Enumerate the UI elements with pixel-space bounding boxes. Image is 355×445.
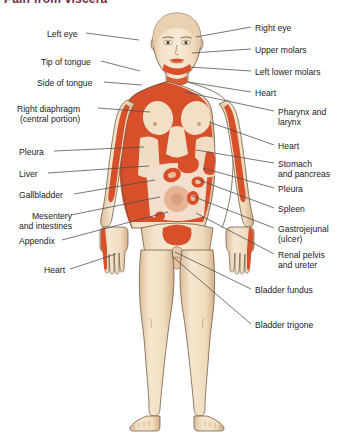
callout-label-line1: Stomach (278, 159, 312, 169)
callout-label-line1: Mesentery (32, 211, 72, 221)
callout-label-line1: Heart (278, 141, 299, 151)
callout-label-line1: Pharynx and (278, 107, 326, 117)
callout-label-line1: Liver (19, 169, 38, 179)
callout-label-appendix: Appendix (19, 236, 55, 246)
callout-label-line1: Right eye (255, 23, 291, 33)
callout-label-line1: Right diaphragm (17, 104, 80, 114)
callout-label-heart: Heart (255, 88, 276, 98)
head (151, 13, 203, 78)
callout-label-mesentery-and-intestines: Mesenteryand intestines (19, 211, 72, 232)
callout-label-gastrojejunal-ulcer: Gastrojejunal(ulcer) (278, 224, 329, 245)
legs (130, 250, 224, 431)
callout-label-line2: and pancreas (278, 169, 330, 179)
callout-label-line2: (central portion) (17, 114, 80, 124)
callout-label-line1: Left eye (47, 29, 78, 39)
callout-label-line2: and ureter (278, 260, 325, 270)
callout-label-line1: Pleura (278, 184, 303, 194)
callout-label-pharynx-and-larynx: Pharynx andlarynx (278, 107, 326, 128)
callout-label-stomach-and-pancreas: Stomachand pancreas (278, 159, 330, 180)
torso (119, 82, 233, 245)
callout-label-line1: Gastrojejunal (278, 224, 329, 234)
foot-right (130, 416, 160, 431)
referred-pain-shading (119, 82, 216, 245)
callout-label-line1: Side of tongue (37, 78, 92, 88)
callout-label-line1: Spleen (278, 204, 305, 214)
callout-label-left-eye: Left eye (47, 29, 78, 39)
spot-stomach-pancreas (178, 155, 199, 173)
callout-label-line2: and intestines (19, 221, 72, 231)
callout-label-line1: Pleura (19, 147, 44, 157)
callout-label-line1: Gallbladder (19, 190, 63, 200)
callout-label-line1: Bladder trigone (255, 320, 313, 330)
callout-label-right-diaphragm-central-portion: Right diaphragm(central portion) (17, 104, 80, 125)
callout-label-pleura: Pleura (19, 147, 44, 157)
callout-label-line1: Bladder fundus (255, 285, 313, 295)
callout-label-line2: (ulcer) (278, 234, 329, 244)
callout-label-pleura: Pleura (278, 184, 303, 194)
callout-label-line1: Tip of tongue (41, 57, 91, 67)
callout-label-gallbladder: Gallbladder (19, 190, 63, 200)
callout-label-line1: Renal pelvis (278, 250, 325, 260)
callout-label-line1: Appendix (19, 236, 55, 246)
spot-appendix (155, 212, 165, 221)
callout-label-line1: Heart (44, 265, 65, 275)
callout-label-line2: larynx (278, 117, 326, 127)
callout-label-heart: Heart (278, 141, 299, 151)
callout-label-tip-of-tongue: Tip of tongue (41, 57, 91, 67)
callout-label-upper-molars: Upper molars (255, 45, 307, 55)
callout-label-bladder-trigone: Bladder trigone (255, 320, 313, 330)
callout-label-bladder-fundus: Bladder fundus (255, 285, 313, 295)
callout-label-left-lower-molars: Left lower molars (255, 67, 320, 77)
callout-label-line1: Heart (255, 88, 276, 98)
callout-label-liver: Liver (19, 169, 38, 179)
callout-label-line1: Left lower molars (255, 67, 320, 77)
callout-label-right-eye: Right eye (255, 23, 291, 33)
callout-label-renal-pelvis-and-ureter: Renal pelvisand ureter (278, 250, 325, 271)
callout-label-spleen: Spleen (278, 204, 305, 214)
callout-label-line1: Upper molars (255, 45, 307, 55)
referred-pain-diagram: Pain from viscera (0, 0, 355, 445)
callout-label-heart: Heart (44, 265, 65, 275)
arm-left (219, 100, 254, 274)
foot-left (194, 416, 224, 431)
callout-label-side-of-tongue: Side of tongue (37, 78, 92, 88)
